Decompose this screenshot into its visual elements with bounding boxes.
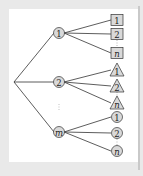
edge-line (64, 132, 111, 151)
leaf-label: 1 (114, 113, 119, 123)
branch-node-label: 2 (56, 78, 61, 88)
edge-line (14, 82, 54, 132)
leaf-label: 1 (114, 67, 119, 77)
leaf-label: 2 (114, 129, 119, 139)
leaf-label: 2 (114, 83, 119, 93)
branch-node-label: m (55, 128, 63, 138)
leaf-label: 1 (114, 16, 119, 26)
edge-line (64, 70, 111, 82)
edge-line (64, 132, 111, 133)
edge-line (64, 33, 111, 53)
edge-line (64, 117, 111, 132)
branch-node-label: 1 (56, 29, 61, 39)
tree-diagram: 112n212nm12n (0, 0, 143, 176)
edge-line (64, 20, 111, 33)
leaf-label: n (114, 147, 119, 157)
edge-line (14, 33, 54, 82)
leaf-label: n (114, 100, 119, 110)
edge-line (64, 33, 111, 34)
leaf-label: 2 (114, 30, 119, 40)
leaf-label: n (114, 49, 119, 59)
